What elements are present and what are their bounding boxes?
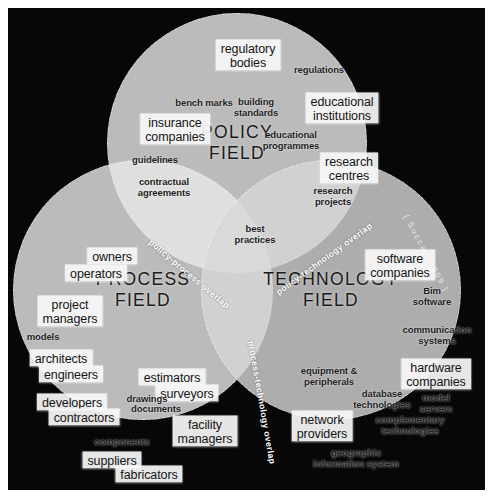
keyword-policy-11: best practices (235, 224, 276, 245)
keyword-policy-0: regulatory bodies (216, 40, 281, 71)
keyword-policy-10: research projects (314, 186, 353, 207)
keyword-process-3: models (27, 332, 60, 343)
keyword-policy-2: bench marks (175, 98, 233, 109)
keyword-policy-7: guidelines (132, 155, 178, 166)
overlap-label-process-technology: process-technology overlap (246, 340, 278, 465)
keyword-process-10: documents (131, 404, 181, 415)
keyword-process-2: project managers (38, 296, 103, 327)
keyword-policy-4: educational institutions (306, 93, 379, 124)
keyword-policy-1: regulations (294, 65, 344, 76)
keyword-policy-6: educational programmes (263, 130, 320, 151)
keyword-process-1: operators (65, 265, 127, 282)
diagram-plate: POLICY FIELD PROCESS FIELD TECHNOLOGY FI… (8, 8, 485, 490)
keyword-technology-6: model servers (419, 393, 452, 414)
keyword-policy-3: building standards (234, 97, 279, 118)
keyword-process-15: fabricators (115, 466, 182, 483)
keyword-technology-2: communication systems (403, 325, 472, 346)
keyword-technology-8: complementary technologies (376, 415, 445, 436)
keyword-technology-1: Bim software (413, 286, 451, 307)
keyword-technology-3: equipment & peripherals (301, 366, 357, 387)
keyword-technology-7: network providers (292, 411, 353, 442)
keyword-process-6: estimators (139, 369, 206, 386)
keyword-process-13: components (94, 437, 149, 448)
keyword-process-12: facility managers (173, 416, 238, 447)
keyword-technology-9: geographic information system (313, 448, 399, 469)
keyword-process-11: contractors (49, 409, 120, 426)
keyword-policy-8: research centres (320, 153, 378, 184)
label-layer: POLICY FIELD PROCESS FIELD TECHNOLOGY FI… (8, 8, 485, 490)
keyword-technology-0: software companies (365, 250, 435, 281)
keyword-process-4: architects (30, 350, 93, 367)
keyword-technology-4: hardware companies (401, 359, 471, 390)
keyword-technology-5: database technologies (353, 389, 410, 410)
keyword-policy-5: insurance companies (140, 114, 210, 145)
keyword-policy-9: contractual agreements (138, 177, 190, 198)
keyword-process-0: owners (87, 248, 137, 265)
venn-diagram-figure: POLICY FIELD PROCESS FIELD TECHNOLOGY FI… (0, 0, 493, 498)
keyword-process-5: engineers (39, 366, 103, 383)
